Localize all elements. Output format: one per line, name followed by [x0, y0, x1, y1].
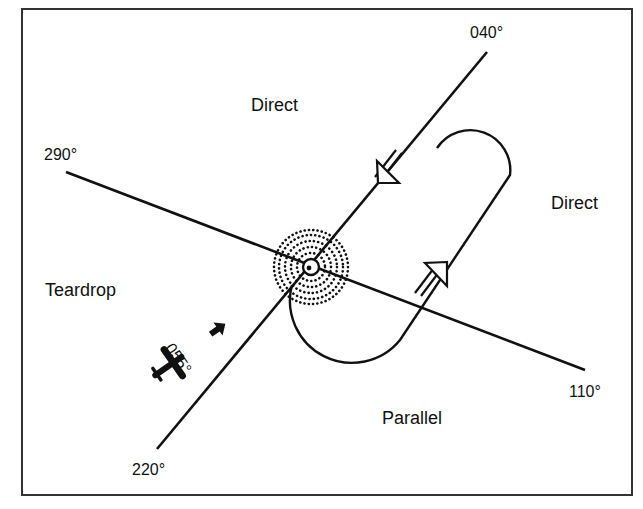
outbound-arrow-icon — [415, 262, 447, 296]
holding-entry-diagram — [0, 0, 643, 509]
course-line-040-220 — [157, 52, 487, 449]
sector-label-direct-top: Direct — [251, 95, 298, 116]
fix-center-dot — [307, 266, 312, 271]
diagram-frame — [22, 9, 632, 495]
bearing-label-040: 040° — [470, 24, 503, 42]
bearing-label-110: 110° — [569, 383, 601, 401]
bearing-label-220: 220° — [132, 461, 165, 479]
bearing-label-290: 290° — [44, 146, 77, 164]
inbound-arrow-icon — [375, 148, 410, 183]
heading-arrow-icon — [206, 317, 230, 340]
sector-label-teardrop: Teardrop — [45, 280, 116, 301]
sector-label-direct-right: Direct — [551, 193, 598, 214]
sector-label-parallel: Parallel — [382, 408, 442, 429]
